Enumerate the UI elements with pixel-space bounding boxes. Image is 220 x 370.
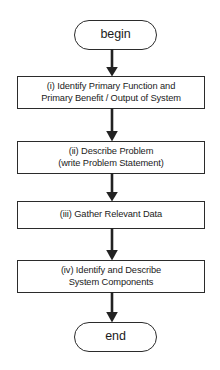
flow-node-step-4-label: (iv) Identify and Describe System Compon… — [61, 265, 161, 288]
flowchart-diagram: begin (i) Identify Primary Function and … — [0, 0, 220, 370]
flow-arrow-step-3-to-step-4 — [100, 228, 124, 261]
flow-node-end[interactable]: end — [74, 322, 157, 352]
flow-arrow-step-2-to-step-3 — [100, 173, 124, 202]
flow-node-step-2[interactable]: (ii) Describe Problem (write Problem Sta… — [17, 141, 205, 174]
flow-node-step-1-label: (i) Identify Primary Function and Primar… — [41, 81, 181, 104]
flow-node-begin[interactable]: begin — [74, 20, 157, 50]
flow-node-step-3-label: (iii) Gather Relevant Data — [60, 209, 162, 220]
flow-node-step-2-label: (ii) Describe Problem (write Problem Sta… — [58, 146, 163, 169]
flow-node-begin-label: begin — [100, 27, 130, 42]
flow-arrow-begin-to-step-1 — [100, 49, 124, 77]
flow-node-step-1[interactable]: (i) Identify Primary Function and Primar… — [17, 76, 205, 109]
flow-node-step-4[interactable]: (iv) Identify and Describe System Compon… — [17, 260, 205, 293]
flow-node-step-3[interactable]: (iii) Gather Relevant Data — [17, 201, 205, 229]
flow-arrow-step-4-to-end — [100, 292, 124, 323]
flow-node-end-label: end — [105, 329, 126, 344]
flow-arrow-step-1-to-step-2 — [100, 108, 124, 142]
